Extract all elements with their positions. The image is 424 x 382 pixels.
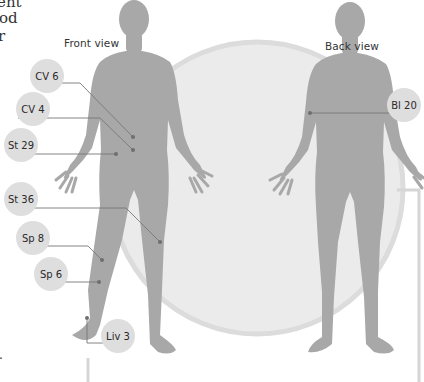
point-label-sp8: Sp 8	[16, 221, 50, 255]
dot-cv4	[131, 148, 135, 152]
point-label-st29: St 29	[4, 128, 38, 162]
point-label-cv4: CV 4	[16, 92, 50, 126]
point-label-cv6: CV 6	[30, 59, 64, 93]
point-label-st36: St 36	[4, 182, 38, 216]
front-view-label: Front view	[64, 37, 119, 49]
point-label-sp6: Sp 6	[34, 257, 68, 291]
point-label-bl20: Bl 20	[387, 88, 421, 122]
dot-liv3	[85, 316, 89, 320]
dot-st36	[158, 240, 162, 244]
dot-st29	[114, 152, 118, 156]
acupressure-diagram: ent od r .	[0, 0, 424, 382]
dot-cv6	[131, 135, 135, 139]
dot-sp6	[97, 280, 101, 284]
dot-bl20	[308, 111, 312, 115]
point-label-liv3: Liv 3	[101, 319, 135, 353]
figure-artwork	[0, 0, 424, 382]
back-view-label: Back view	[325, 40, 379, 52]
dot-sp8	[100, 258, 104, 262]
